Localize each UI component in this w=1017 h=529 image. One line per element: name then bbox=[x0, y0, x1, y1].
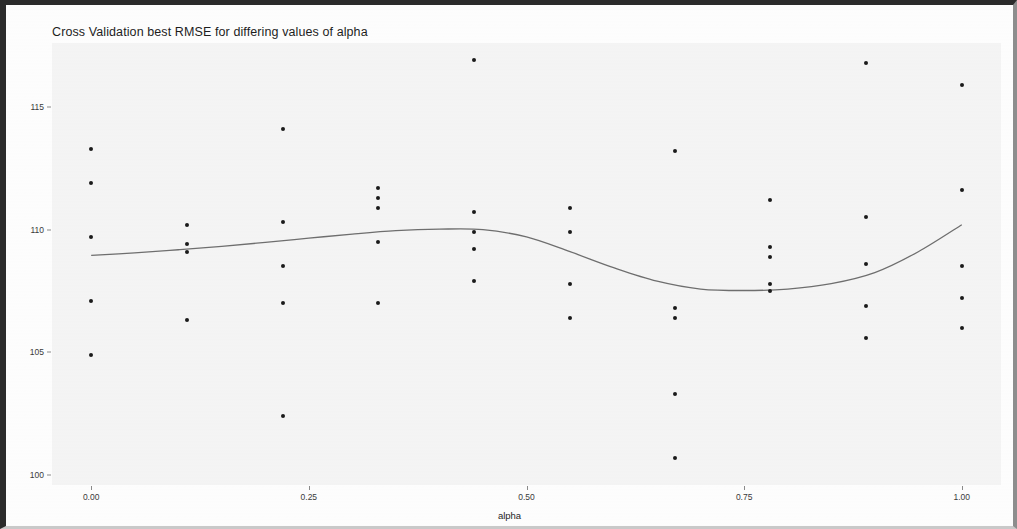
y-tick-label: 115 bbox=[8, 102, 44, 112]
data-point bbox=[376, 196, 380, 200]
data-point bbox=[472, 230, 476, 234]
data-point bbox=[281, 220, 285, 224]
x-tick-label: 1.00 bbox=[937, 492, 987, 502]
data-point bbox=[864, 61, 868, 65]
data-point bbox=[568, 282, 572, 286]
data-point bbox=[768, 245, 772, 249]
x-tick-label: 0.25 bbox=[284, 492, 334, 502]
data-point bbox=[568, 316, 572, 320]
y-tick-label: 100 bbox=[8, 470, 44, 480]
data-point bbox=[568, 230, 572, 234]
x-tick-mark bbox=[527, 486, 528, 490]
data-point bbox=[960, 264, 964, 268]
data-point bbox=[281, 301, 285, 305]
data-point bbox=[472, 58, 476, 62]
data-point bbox=[673, 392, 677, 396]
data-point bbox=[185, 250, 189, 254]
data-point bbox=[89, 235, 93, 239]
data-point bbox=[185, 223, 189, 227]
page-title: Cross Validation best RMSE for differing… bbox=[52, 25, 368, 39]
data-point bbox=[960, 188, 964, 192]
data-point bbox=[472, 247, 476, 251]
data-point bbox=[376, 240, 380, 244]
data-point bbox=[673, 316, 677, 320]
x-tick-mark bbox=[744, 486, 745, 490]
data-point bbox=[864, 215, 868, 219]
data-point bbox=[864, 304, 868, 308]
data-point bbox=[281, 414, 285, 418]
data-point bbox=[568, 206, 572, 210]
data-point bbox=[89, 353, 93, 357]
y-tick-mark bbox=[47, 229, 51, 230]
data-point bbox=[960, 326, 964, 330]
data-point bbox=[864, 336, 868, 340]
data-point bbox=[673, 456, 677, 460]
plot-panel bbox=[52, 43, 1001, 485]
data-point bbox=[768, 289, 772, 293]
x-tick-mark bbox=[309, 486, 310, 490]
data-point bbox=[89, 299, 93, 303]
data-point bbox=[768, 198, 772, 202]
loess-trend-line bbox=[91, 225, 962, 291]
data-point bbox=[960, 83, 964, 87]
data-point bbox=[185, 242, 189, 246]
data-point bbox=[472, 210, 476, 214]
data-point bbox=[472, 279, 476, 283]
y-tick-mark bbox=[47, 352, 51, 353]
data-point bbox=[673, 306, 677, 310]
data-point bbox=[281, 127, 285, 131]
x-tick-label: 0.75 bbox=[719, 492, 769, 502]
data-point bbox=[376, 206, 380, 210]
x-axis-label: alpha bbox=[6, 510, 1013, 521]
plot-surface: Cross Validation best RMSE for differing… bbox=[6, 5, 1013, 526]
y-tick-mark bbox=[47, 475, 51, 476]
data-point bbox=[376, 301, 380, 305]
y-tick-mark bbox=[47, 106, 51, 107]
y-tick-label: 110 bbox=[8, 225, 44, 235]
x-tick-mark bbox=[91, 486, 92, 490]
data-point bbox=[768, 255, 772, 259]
x-tick-mark bbox=[962, 486, 963, 490]
data-point bbox=[960, 296, 964, 300]
y-tick-label: 105 bbox=[8, 347, 44, 357]
data-point bbox=[281, 264, 285, 268]
screenshot-frame: Cross Validation best RMSE for differing… bbox=[0, 0, 1017, 529]
trend-line-svg bbox=[52, 43, 1001, 485]
data-point bbox=[89, 147, 93, 151]
x-tick-label: 0.50 bbox=[502, 492, 552, 502]
x-tick-label: 0.00 bbox=[66, 492, 116, 502]
data-point bbox=[89, 181, 93, 185]
data-point bbox=[185, 318, 189, 322]
data-point bbox=[376, 186, 380, 190]
data-point bbox=[673, 149, 677, 153]
data-point bbox=[864, 262, 868, 266]
data-point bbox=[768, 282, 772, 286]
